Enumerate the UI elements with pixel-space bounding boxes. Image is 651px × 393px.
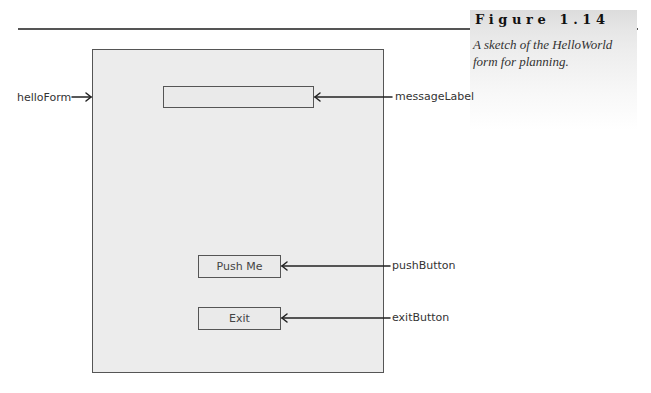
- arrow-left-icon: [282, 262, 390, 270]
- arrow-left-icon: [315, 93, 392, 101]
- arrow-right-icon: [72, 93, 91, 101]
- annotation-arrows: [0, 0, 651, 393]
- arrow-left-icon: [282, 314, 390, 322]
